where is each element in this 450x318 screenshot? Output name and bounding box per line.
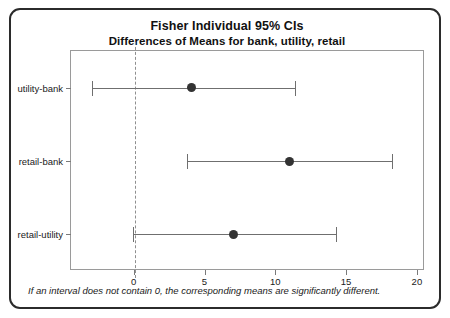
interval-cap-lower <box>92 81 93 96</box>
x-tick-mark <box>134 270 135 275</box>
interval-cap-upper <box>336 227 337 242</box>
interval-cap-lower <box>133 227 134 242</box>
y-tick-mark <box>66 161 71 162</box>
mean-difference-marker <box>285 157 294 166</box>
fisher-ci-figure: Fisher Individual 95% CIs Differences of… <box>9 8 441 309</box>
interval-cap-upper <box>392 154 393 169</box>
chart-footnote: If an interval does not contain 0, the c… <box>28 285 380 296</box>
page-title: Fisher Individual 95% CIs <box>11 19 443 34</box>
y-tick-label-retail-bank: retail-bank <box>19 156 63 167</box>
x-tick-mark <box>205 270 206 275</box>
x-tick-mark <box>275 270 276 275</box>
title-block: Fisher Individual 95% CIs Differences of… <box>11 19 443 48</box>
x-tick-mark <box>417 270 418 275</box>
mean-difference-marker <box>229 230 238 239</box>
chart-subtitle: Differences of Means for bank, utility, … <box>11 34 443 48</box>
y-tick-mark <box>66 88 71 89</box>
y-tick-label-utility-bank: utility-bank <box>18 82 63 93</box>
mean-difference-marker <box>187 83 196 92</box>
zero-reference-line <box>135 42 136 278</box>
x-tick-mark <box>346 270 347 275</box>
interval-cap-lower <box>187 154 188 169</box>
x-tick-label-20: 20 <box>412 276 423 287</box>
plot-area: utility-bankretail-bankretail-utility <box>71 51 423 269</box>
y-tick-mark <box>66 234 71 235</box>
y-tick-label-retail-utility: retail-utility <box>18 229 63 240</box>
plot-panel: utility-bankretail-bankretail-utility <box>70 50 424 270</box>
interval-cap-upper <box>295 81 296 96</box>
